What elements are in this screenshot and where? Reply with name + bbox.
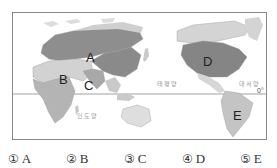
greenland-shape — [245, 17, 263, 41]
japan-shape — [143, 48, 149, 62]
choice-number: ③ — [124, 152, 135, 166]
world-map: A B C D E 인도양 태평양 대서양 0° — [12, 12, 267, 140]
choice-1[interactable]: ①A — [8, 150, 31, 168]
region-label-a: A — [86, 51, 95, 64]
ocean-label-pacific: 태평양 — [157, 81, 178, 87]
map-shapes — [13, 13, 266, 139]
region-label-c: C — [84, 79, 93, 92]
choice-number: ⑤ — [240, 152, 251, 166]
choice-label: E — [254, 151, 262, 166]
choice-5[interactable]: ⑤E — [240, 150, 262, 168]
ocean-label-indian: 인도양 — [77, 113, 98, 119]
region-label-e: E — [233, 109, 242, 122]
choice-label: B — [80, 151, 89, 166]
choice-number: ② — [66, 152, 77, 166]
choice-label: D — [196, 151, 205, 166]
southeast-asia-shape — [105, 77, 135, 101]
africa-shape — [33, 77, 75, 123]
answer-choices: ①A ②B ③C ④D ⑤E — [0, 150, 277, 168]
equator-label: 0° — [257, 87, 264, 94]
canada-north-shape — [177, 21, 249, 43]
choice-number: ④ — [182, 152, 193, 166]
choice-4[interactable]: ④D — [182, 150, 205, 168]
choice-label: C — [138, 151, 147, 166]
australia-shape — [121, 105, 151, 127]
choice-number: ① — [8, 152, 19, 166]
region-label-d: D — [203, 55, 212, 68]
region-label-b: B — [59, 73, 68, 86]
choice-2[interactable]: ②B — [66, 150, 88, 168]
choice-3[interactable]: ③C — [124, 150, 146, 168]
region-d-shape — [181, 41, 247, 77]
choice-label: A — [22, 151, 31, 166]
